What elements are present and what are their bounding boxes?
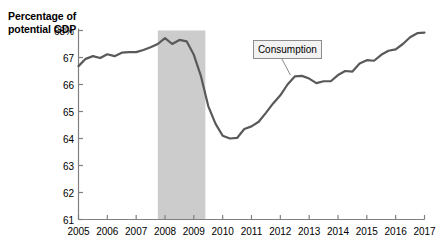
- consumption-leader-line: [282, 59, 291, 75]
- x-tick-label: 2013: [298, 226, 320, 237]
- x-tick-label: 2017: [413, 226, 435, 237]
- series-line-consumption: [79, 33, 425, 139]
- y-tick-label: 61: [30, 214, 74, 225]
- x-tick-label: 2007: [125, 226, 147, 237]
- x-tick-label: 2015: [356, 226, 378, 237]
- x-tick-label: 2006: [96, 226, 118, 237]
- recession-band: [158, 31, 206, 220]
- y-tick-label: 63: [30, 160, 74, 171]
- x-tick-label: 2012: [269, 226, 291, 237]
- y-tick-label: 65: [30, 106, 74, 117]
- x-tick-label: 2016: [385, 226, 407, 237]
- shaded-regions-layer: [158, 31, 206, 220]
- series-layer: [79, 33, 425, 139]
- x-tick-label: 2011: [241, 226, 263, 237]
- y-tick-label: 64: [30, 133, 74, 144]
- axis-layer: [79, 29, 425, 220]
- y-tick-label: 68%: [30, 25, 74, 36]
- line-chart-plot: [0, 0, 440, 247]
- y-tick-label: 62: [30, 187, 74, 198]
- y-tick-label: 66: [30, 79, 74, 90]
- x-tick-label: 2009: [183, 226, 205, 237]
- x-tick-label: 2014: [327, 226, 349, 237]
- consumption-callout: Consumption: [253, 40, 322, 59]
- annotation-leader-layer: [282, 59, 291, 75]
- x-tick-label: 2010: [212, 226, 234, 237]
- x-tick-label: 2008: [154, 226, 176, 237]
- x-tick-label: 2005: [67, 226, 89, 237]
- chart-figure: Percentage of potential GDP 68%676665646…: [0, 0, 440, 247]
- y-tick-label: 67: [30, 52, 74, 63]
